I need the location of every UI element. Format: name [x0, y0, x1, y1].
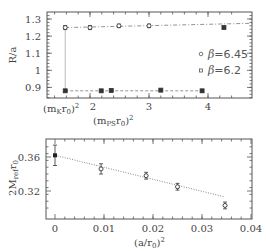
legend-circle-marker: [199, 52, 203, 56]
x-tick-label: 0: [52, 223, 58, 234]
x-tick-label: 0.03: [191, 223, 213, 234]
bottom-xlabel: (a/r0)2: [134, 236, 165, 250]
data-point-circle: [147, 24, 151, 28]
x-tick-label: 4: [205, 101, 211, 112]
legend: β=6.45 β=6.2: [199, 48, 248, 77]
figure: 0.911.11.21.3234 R/a (mKr0)2 (mPSr0)2 β=…: [0, 0, 266, 251]
data-point-circle: [117, 24, 121, 28]
x-tick-label: 0.02: [142, 223, 164, 234]
x-tick-label: 0.04: [240, 223, 262, 234]
bottom-plot-frame: [46, 139, 252, 219]
data-point-square: [159, 88, 163, 92]
data-point-circle: [99, 167, 103, 171]
top-ticks: 0.911.11.21.3234: [25, 12, 252, 112]
data-point-circle: [223, 203, 227, 207]
legend-label-beta-6.2: β=6.2: [207, 64, 241, 77]
x-tick-label: 3: [146, 101, 152, 112]
legend-square-marker: [200, 69, 203, 72]
y-tick-label: 1.1: [25, 48, 41, 59]
data-point-circle: [176, 185, 180, 189]
y-tick-label: 1.3: [25, 14, 41, 25]
bottom-ticks: 0.320.3600.010.020.030.04: [18, 139, 262, 234]
fit-line: [55, 155, 225, 197]
bottom-plot: 0.320.3600.010.020.030.04 2Mrefr0 (a/r0)…: [7, 139, 262, 250]
legend-label-beta-6.45: β=6.45: [207, 48, 248, 61]
mk-tick-label: (mKr0)2: [43, 102, 79, 116]
data-point-square: [222, 26, 226, 30]
data-point-square: [109, 88, 113, 92]
top-ylabel: R/a: [7, 47, 18, 64]
y-tick-label: 0.36: [18, 152, 40, 163]
data-point-circle: [63, 26, 67, 30]
bottom-series: [53, 145, 227, 209]
data-point-circle: [88, 26, 92, 30]
y-tick-label: 1.2: [25, 31, 41, 42]
top-plot: 0.911.11.21.3234 R/a (mKr0)2 (mPSr0)2 β=…: [7, 12, 252, 128]
data-point-square: [200, 89, 204, 93]
top-xlabel: (mPSr0)2: [93, 114, 134, 128]
x-tick-label: 0.01: [93, 223, 115, 234]
data-point-square: [99, 89, 103, 93]
y-tick-label: 1: [35, 65, 41, 76]
x-tick-label: 2: [90, 101, 96, 112]
y-tick-label: 0.32: [18, 186, 40, 197]
y-tick-label: 0.9: [25, 82, 41, 93]
data-point-square: [63, 89, 67, 93]
data-point-circle: [144, 174, 148, 178]
data-point-filled-square: [53, 153, 57, 157]
